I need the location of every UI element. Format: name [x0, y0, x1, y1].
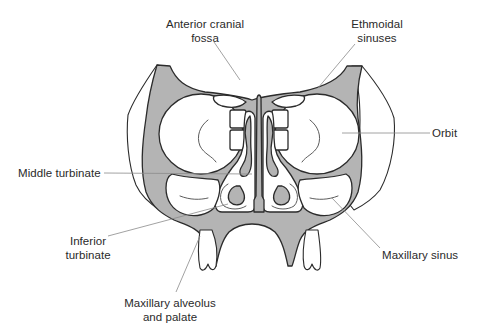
leader-anterior-cranial-fossa	[214, 42, 240, 80]
left-molar	[199, 230, 217, 270]
label-middle-turbinate: Middle turbinate	[18, 166, 101, 180]
right-molar	[303, 230, 321, 270]
label-maxillary-sinus: Maxillary sinus	[382, 248, 458, 262]
label-maxillary-alveolus: Maxillary alveolus and palate	[110, 296, 230, 324]
leader-maxillary-alveolus	[176, 236, 200, 292]
label-inferior-turbinate: Inferior turbinate	[58, 234, 118, 262]
label-anterior-cranial-fossa: Anterior cranial fossa	[150, 17, 260, 45]
left-inferior-turbinate	[228, 186, 244, 205]
anatomy-diagram: Anterior cranial fossa Ethmoidal sinuses…	[0, 0, 477, 336]
label-orbit: Orbit	[432, 126, 457, 140]
label-ethmoidal-sinuses: Ethmoidal sinuses	[342, 17, 412, 45]
right-inferior-turbinate	[273, 186, 289, 205]
